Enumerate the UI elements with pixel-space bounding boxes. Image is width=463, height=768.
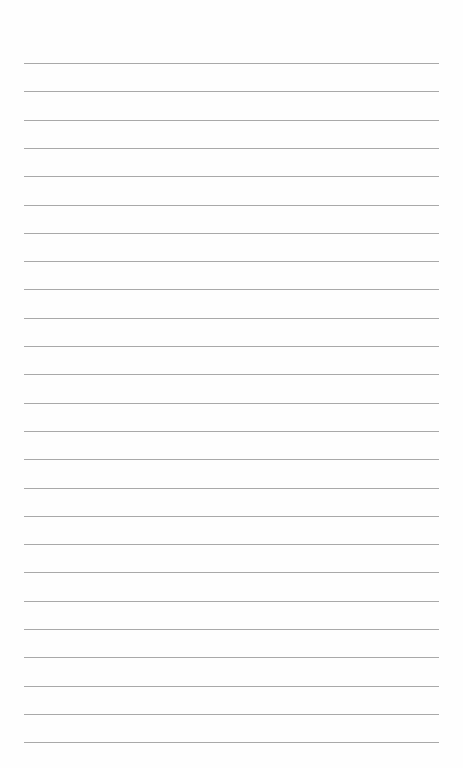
ruled-line xyxy=(24,572,439,573)
ruled-line xyxy=(24,233,439,234)
ruled-line xyxy=(24,516,439,517)
ruled-line xyxy=(24,63,439,64)
ruled-line xyxy=(24,742,439,743)
ruled-line xyxy=(24,403,439,404)
ruled-line xyxy=(24,601,439,602)
ruled-line xyxy=(24,148,439,149)
ruled-line xyxy=(24,318,439,319)
ruled-line xyxy=(24,657,439,658)
ruled-line xyxy=(24,120,439,121)
lined-paper-page xyxy=(0,0,463,768)
ruled-line xyxy=(24,261,439,262)
ruled-line xyxy=(24,431,439,432)
ruled-line xyxy=(24,346,439,347)
ruled-line xyxy=(24,686,439,687)
ruled-line xyxy=(24,91,439,92)
ruled-line xyxy=(24,544,439,545)
ruled-line xyxy=(24,374,439,375)
ruled-line xyxy=(24,176,439,177)
ruled-line xyxy=(24,488,439,489)
ruled-line xyxy=(24,714,439,715)
ruled-line xyxy=(24,205,439,206)
ruled-line xyxy=(24,289,439,290)
ruled-line xyxy=(24,629,439,630)
ruled-line xyxy=(24,459,439,460)
